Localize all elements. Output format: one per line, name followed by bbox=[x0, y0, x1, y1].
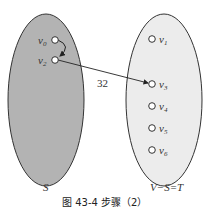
node-v0 bbox=[52, 37, 59, 44]
node-v4 bbox=[149, 103, 156, 110]
set-s-label: S bbox=[43, 181, 49, 193]
node-v3 bbox=[149, 81, 156, 88]
edge-weight-label: 32 bbox=[97, 77, 108, 89]
node-v1 bbox=[149, 36, 156, 43]
node-v6 bbox=[149, 147, 156, 154]
node-v5 bbox=[149, 125, 156, 132]
graph-diagram: v0 v2 v1 v3 v4 v5 v6 32 S V−S=T 图 43-4 步… bbox=[0, 0, 205, 212]
set-t-label: V−S=T bbox=[150, 181, 184, 193]
figure-caption: 图 43-4 步骤（2） bbox=[62, 197, 147, 208]
node-v2 bbox=[52, 57, 59, 64]
